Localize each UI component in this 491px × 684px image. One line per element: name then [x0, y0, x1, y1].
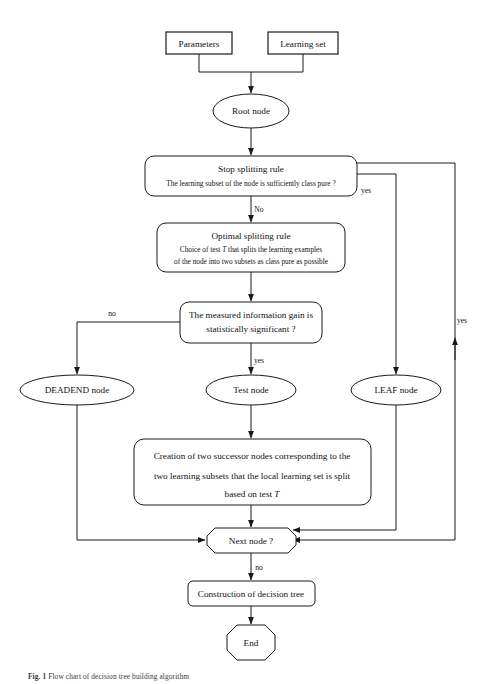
- node-creation-line2: two learning subsets that the local lear…: [154, 471, 351, 481]
- node-stop-splitting-rule: Stop splitting rule The learning subset …: [145, 156, 357, 196]
- edge-learningset-to-merge: [251, 54, 303, 72]
- node-leaf: LEAF node: [351, 375, 441, 405]
- edge-label-stop-yes-loop: yes: [457, 316, 467, 325]
- edge-infogain-to-deadend: [77, 322, 180, 374]
- node-information-gain: The measured information gain is statist…: [180, 302, 322, 343]
- edge-parameters-to-merge: [199, 54, 251, 72]
- node-optimal-splitting-rule: Optimal splitting rule Choice of test T …: [157, 223, 345, 272]
- edge-stoprule-to-right-loop: [357, 163, 455, 534]
- node-root: Root node: [213, 94, 289, 128]
- node-creation: Creation of two successor nodes correspo…: [134, 439, 371, 505]
- figure-caption-text: Flow chart of decision tree building alg…: [48, 672, 189, 681]
- node-deadend-label: DEADEND node: [45, 385, 110, 395]
- edge-stoprule-to-leafnode: [357, 174, 396, 374]
- figure-caption: Fig. 1 Flow chart of decision tree build…: [28, 672, 189, 681]
- node-stop-rule-title: Stop splitting rule: [218, 164, 284, 174]
- node-info-gain-line1: The measured information gain is: [189, 310, 313, 320]
- edge-right-loop-to-nextnode: [293, 534, 455, 540]
- node-learning-set: Learning set: [268, 32, 338, 54]
- node-optimal-rule-title: Optimal splitting rule: [211, 231, 290, 241]
- node-next: Next node ?: [207, 528, 296, 553]
- edge-label-stop-no: No: [254, 205, 263, 214]
- node-learning-set-label: Learning set: [280, 39, 326, 49]
- flowchart-canvas: Parameters Learning set Root node Stop s…: [0, 0, 491, 684]
- node-end: End: [227, 625, 275, 660]
- node-leaf-label: LEAF node: [374, 385, 417, 395]
- node-stop-rule-detail: The learning subset of the node is suffi…: [166, 179, 335, 188]
- node-optimal-rule-line1: Choice of test T that splits the learnin…: [180, 245, 322, 254]
- edge-label-gain-yes: yes: [254, 356, 264, 365]
- node-test: Test node: [206, 375, 296, 405]
- edge-label-next-no: no: [255, 563, 263, 572]
- node-parameters: Parameters: [166, 32, 232, 54]
- node-next-label: Next node ?: [229, 536, 273, 546]
- node-info-gain-line2: statistically significant ?: [206, 324, 295, 334]
- edge-label-gain-no: no: [108, 309, 116, 318]
- flowchart-diagram: Parameters Learning set Root node Stop s…: [0, 0, 491, 684]
- node-end-label: End: [244, 638, 259, 648]
- node-parameters-label: Parameters: [179, 39, 220, 49]
- edge-label-stop-yes-leaf: yes: [361, 186, 371, 195]
- node-optimal-rule-line2: of the node into two subsets as class pu…: [174, 257, 328, 266]
- node-root-label: Root node: [232, 106, 270, 116]
- figure-caption-prefix: Fig. 1: [28, 672, 46, 681]
- node-creation-line3: based on test T: [225, 489, 281, 499]
- node-construction-label: Construction of decision tree: [198, 589, 304, 599]
- node-test-label: Test node: [233, 385, 268, 395]
- node-construction: Construction of decision tree: [188, 581, 315, 606]
- node-creation-line1: Creation of two successor nodes correspo…: [154, 451, 351, 461]
- node-deadend: DEADEND node: [20, 375, 134, 405]
